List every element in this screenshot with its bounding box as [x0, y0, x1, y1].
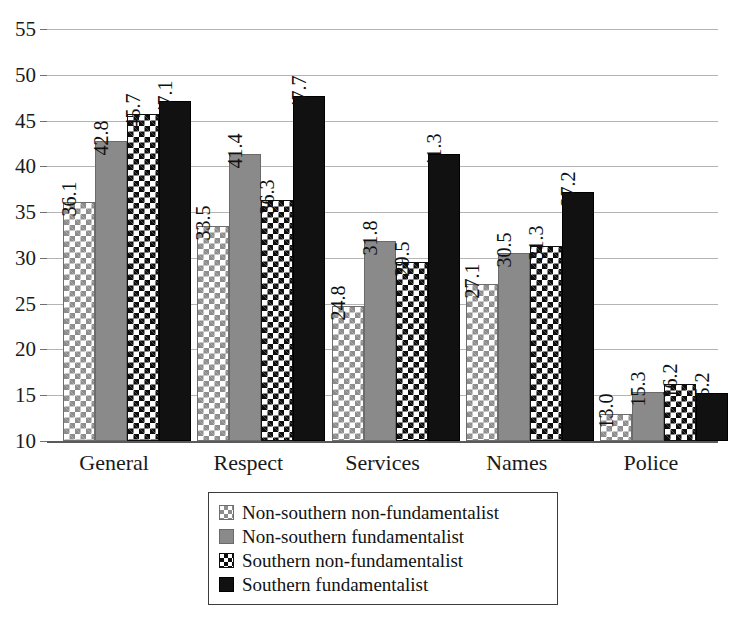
x-axis-category-label: General: [50, 452, 178, 474]
x-axis-baseline: [47, 441, 718, 443]
bar-value-label: 13.0: [596, 393, 616, 428]
y-axis-tick-label: 30: [15, 247, 47, 268]
x-axis-category-label: Police: [587, 452, 715, 474]
y-axis-tick-label: 25: [15, 293, 47, 314]
legend-item-label: Non-southern non-fundamentalist: [242, 503, 499, 522]
x-axis-category-label: Respect: [184, 452, 312, 474]
bar-value-label: 15.3: [628, 372, 648, 407]
y-axis-tick-label: 15: [15, 385, 47, 406]
legend-item-label: Non-southern fundamentalist: [242, 527, 464, 546]
y-axis-tick-label: 55: [15, 19, 47, 40]
y-axis-tick-label: 35: [15, 202, 47, 223]
bar[interactable]: 13.0: [600, 414, 632, 441]
bar-chart: 36.142.845.747.133.541.436.347.724.831.8…: [0, 0, 730, 624]
bar[interactable]: 15.2: [696, 393, 728, 441]
y-axis-tick-label: 40: [15, 156, 47, 177]
y-axis-tick-label: 45: [15, 110, 47, 131]
bar-group: 13.015.316.215.2: [47, 29, 718, 441]
x-axis-category-label: Names: [453, 452, 581, 474]
y-axis-tick-label: 20: [15, 339, 47, 360]
legend-item[interactable]: Non-southern non-fundamentalist: [219, 500, 547, 524]
x-axis-category-label: Services: [319, 452, 447, 474]
legend: Non-southern non-fundamentalistNon-south…: [208, 492, 558, 605]
legend-swatch-icon: [219, 553, 234, 568]
bar-value-label: 16.2: [660, 364, 680, 399]
legend-item-label: Southern fundamentalist: [242, 575, 428, 594]
legend-item-label: Southern non-fundamentalist: [242, 551, 463, 570]
legend-swatch-icon: [219, 529, 234, 544]
bar-value-label: 15.2: [692, 373, 712, 408]
legend-item[interactable]: Southern non-fundamentalist: [219, 548, 547, 572]
legend-swatch-icon: [219, 577, 234, 592]
legend-item[interactable]: Southern fundamentalist: [219, 572, 547, 596]
legend-swatch-icon: [219, 505, 234, 520]
bar[interactable]: 15.3: [632, 392, 664, 441]
legend-item[interactable]: Non-southern fundamentalist: [219, 524, 547, 548]
y-axis-tick-label: 10: [15, 431, 47, 452]
y-axis-tick-label: 50: [15, 64, 47, 85]
plot-area: 36.142.845.747.133.541.436.347.724.831.8…: [47, 29, 718, 441]
